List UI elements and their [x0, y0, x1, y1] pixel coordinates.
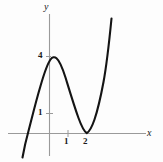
- x-tick-label-1: 1: [64, 137, 69, 146]
- y-axis-label: y: [44, 2, 48, 12]
- y-tick-label-1: 1: [38, 108, 43, 117]
- coordinate-plot: [0, 0, 163, 162]
- y-tick-label-4: 4: [38, 51, 43, 60]
- graph-figure: y x 4 1 1 2: [0, 0, 163, 162]
- x-tick-label-2: 2: [83, 137, 88, 146]
- x-axis-label: x: [147, 128, 151, 138]
